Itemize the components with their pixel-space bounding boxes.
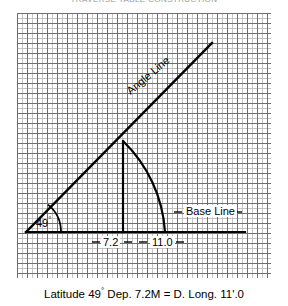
angle-value-text: 49 bbox=[36, 217, 48, 229]
caption-latitude-value: 49 bbox=[88, 288, 101, 300]
caption-equals-sign: = bbox=[164, 288, 171, 300]
base-line-label: Base Line bbox=[184, 205, 237, 217]
graph-paper-grid bbox=[17, 13, 271, 278]
caption-departure-word: Dep. bbox=[107, 288, 131, 300]
caption-dlong-word: D. Long. bbox=[174, 288, 217, 300]
dimension-departure-label: 7.2 bbox=[101, 236, 120, 248]
figure-caption: Latitude 49° Dep. 7.2M = D. Long. 11'.0 bbox=[0, 286, 288, 300]
dimension-dlong-label: 11.0 bbox=[150, 236, 175, 248]
caption-latitude-word: Latitude bbox=[44, 288, 85, 300]
angle-value-label: 49° bbox=[36, 215, 51, 229]
figure-top-title: TRAVERSE TABLE CONSTRUCTION bbox=[0, 0, 288, 3]
figure-root: TRAVERSE TABLE CONSTRUCTION 49° Angle Li… bbox=[0, 0, 288, 306]
caption-dlong-value: 11'.0 bbox=[220, 288, 244, 300]
caption-departure-value: 7.2M bbox=[135, 288, 161, 300]
degree-symbol-icon: ° bbox=[48, 215, 51, 224]
caption-degree-icon: ° bbox=[101, 286, 104, 295]
